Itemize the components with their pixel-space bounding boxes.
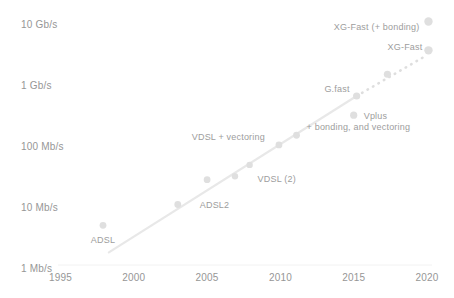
data-point-adsl [100, 222, 107, 229]
data-label-xgfast-bonding: XG-Fast (+ bonding) [334, 22, 420, 32]
y-tick-100mbs: 100 Mb/s [21, 141, 64, 152]
data-label-adsl2: ADSL2 [200, 200, 230, 210]
y-tick-1mbs: 1 Mb/s [21, 263, 52, 274]
data-label-vplus: Vplus [364, 111, 388, 121]
data-label-gfast: G.fast [324, 84, 350, 94]
x-tick-2020: 2020 [415, 272, 438, 283]
data-point-adsl2plus [204, 176, 211, 183]
y-tick-10gbs: 10 Gb/s [21, 19, 57, 30]
x-tick-2015: 2015 [342, 272, 365, 283]
x-tick-1995: 1995 [49, 272, 72, 283]
data-point-vdsl-vectoring [276, 142, 283, 149]
y-tick-1gbs: 1 Gb/s [21, 80, 52, 91]
trendline-projection-dashed [357, 57, 424, 96]
data-label-vdsl2: VDSL (2) [258, 174, 296, 184]
data-point-vdsl2 [246, 162, 252, 168]
data-point-vdsl [232, 173, 238, 179]
data-point-projection-2017 [384, 71, 391, 78]
data-point-bonding-vectoring [293, 132, 300, 139]
x-tick-2005: 2005 [196, 272, 219, 283]
data-label-vdsl-vectoring: VDSL + vectoring [192, 132, 265, 142]
data-point-xgfast [424, 46, 432, 54]
data-label-adsl: ADSL [91, 235, 115, 245]
data-label-bonding-vectoring: + bonding, and vectoring [307, 122, 411, 132]
data-point-vplus [350, 112, 357, 119]
data-label-xgfast: XG-Fast [388, 42, 423, 52]
data-point-xgfast-bonding [424, 17, 432, 25]
data-point-gfast [353, 92, 360, 99]
x-tick-2010: 2010 [269, 272, 292, 283]
data-point-adsl2 [174, 201, 181, 208]
x-tick-2000: 2000 [122, 272, 145, 283]
y-tick-10mbs: 10 Mb/s [21, 202, 58, 213]
scatter-chart: 10 Gb/s1 Gb/s100 Mb/s10 Mb/s1 Mb/s199520… [0, 0, 454, 298]
broadband-speed-evolution-chart: 10 Gb/s1 Gb/s100 Mb/s10 Mb/s1 Mb/s199520… [0, 0, 454, 298]
